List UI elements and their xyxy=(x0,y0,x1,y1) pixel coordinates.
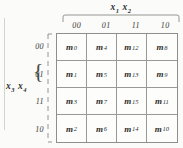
minterm-sub: 15 xyxy=(131,98,138,105)
minterm-sub: 5 xyxy=(103,71,107,78)
minterm-sub: 0 xyxy=(73,44,77,51)
minterm-sub: 2 xyxy=(73,125,77,132)
kmap-cell[interactable]: m5 xyxy=(87,61,117,88)
kmap-cell[interactable]: m7 xyxy=(87,88,117,115)
minterm-base: m xyxy=(66,42,73,52)
minterm-base: m xyxy=(124,42,131,52)
minterm-base: m xyxy=(96,42,103,52)
minterm-base: m xyxy=(96,96,103,106)
kmap-grid: m0 m4 m12 m8 m1 m5 m13 m9 m3 m7 m15 m11 … xyxy=(56,33,178,143)
kmap-cell[interactable]: m13 xyxy=(117,61,147,88)
minterm-sub: 12 xyxy=(131,44,138,51)
column-header-11: 11 xyxy=(121,21,151,32)
kmap-cell[interactable]: m9 xyxy=(147,61,177,88)
minterm-sub: 6 xyxy=(103,125,107,132)
minterm-base: m xyxy=(96,124,103,134)
row-headers: 00 01 11 10 xyxy=(26,33,46,143)
minterm-sub: 7 xyxy=(103,98,107,105)
minterm-base: m xyxy=(66,124,73,134)
minterm-base: m xyxy=(156,42,163,52)
kmap-cell[interactable]: m3 xyxy=(57,88,87,115)
minterm-sub: 14 xyxy=(131,125,138,132)
kmap-cell[interactable]: m11 xyxy=(147,88,177,115)
kmap-cell[interactable]: m2 xyxy=(57,115,87,142)
kmap-cell[interactable]: m8 xyxy=(147,34,177,61)
minterm-sub: 1 xyxy=(73,71,77,78)
kmap-cell[interactable]: m14 xyxy=(117,115,147,142)
kmap-cell[interactable]: m12 xyxy=(117,34,147,61)
minterm-base: m xyxy=(155,124,162,134)
row-brace-rail xyxy=(46,33,53,143)
kmap-cell[interactable]: m1 xyxy=(57,61,87,88)
top-variable-label: x1 x2 xyxy=(62,2,180,14)
left-variable-label: x3 x4 xyxy=(6,81,27,93)
minterm-sub: 10 xyxy=(162,125,169,132)
row-header-01: 01 xyxy=(26,61,46,89)
top-variable-sub-2: 2 xyxy=(128,7,132,14)
minterm-base: m xyxy=(66,96,73,106)
kmap-cell[interactable]: m6 xyxy=(87,115,117,142)
column-headers: 00 01 11 10 xyxy=(62,21,180,32)
minterm-base: m xyxy=(96,69,103,79)
minterm-sub: 4 xyxy=(103,44,107,51)
kmap-cell[interactable]: m0 xyxy=(57,34,87,61)
minterm-sub: 13 xyxy=(131,71,138,78)
minterm-base: m xyxy=(155,96,162,106)
minterm-base: m xyxy=(124,96,131,106)
column-header-10: 10 xyxy=(151,21,181,32)
minterm-base: m xyxy=(156,69,163,79)
row-header-11: 11 xyxy=(26,88,46,116)
kmap-cell[interactable]: m10 xyxy=(147,115,177,142)
minterm-sub: 3 xyxy=(73,98,77,105)
minterm-sub: 9 xyxy=(164,71,168,78)
column-header-01: 01 xyxy=(92,21,122,32)
minterm-sub: 8 xyxy=(164,44,168,51)
row-header-10: 10 xyxy=(26,116,46,144)
row-header-00: 00 xyxy=(26,33,46,61)
minterm-base: m xyxy=(124,124,131,134)
kmap-cell[interactable]: m4 xyxy=(87,34,117,61)
kmap-cell[interactable]: m15 xyxy=(117,88,147,115)
minterm-base: m xyxy=(124,69,131,79)
kmap-figure: x1 x2 00 01 11 10 x3 x4 { 00 01 11 10 m0… xyxy=(0,0,183,148)
minterm-sub: 11 xyxy=(162,98,169,105)
minterm-base: m xyxy=(66,69,73,79)
page-left-rule xyxy=(4,18,5,130)
column-header-00: 00 xyxy=(62,21,92,32)
